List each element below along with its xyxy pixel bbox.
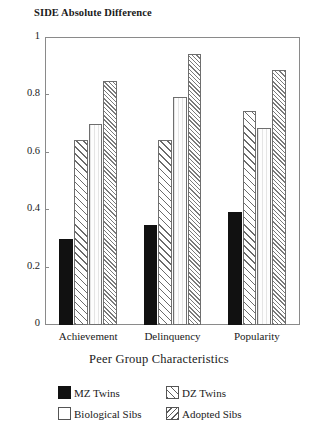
legend-swatch-dz-twins [166, 386, 179, 399]
legend-entry-dz-twins: DZ Twins [166, 386, 226, 399]
bar-adopted-sibs-achievement [103, 81, 117, 325]
y-axis-tick-label: 0.4 [0, 203, 40, 213]
legend-entry-adopted-sibs: Adopted Sibs [166, 407, 242, 420]
y-axis-tick-label: 0.6 [0, 146, 40, 156]
bar-mz-twins-delinquency [144, 225, 158, 325]
legend-row: Biological Sibs Adopted Sibs [58, 403, 268, 424]
x-axis-title: Peer Group Characteristics [0, 352, 318, 367]
legend-row: MZ Twins DZ Twins [58, 382, 268, 403]
y-axis-tick-label: 1 [0, 31, 40, 41]
legend-swatch-biological-sibs [58, 407, 71, 420]
bar-adopted-sibs-popularity [272, 70, 286, 325]
bar-chart-figure: SIDE Absolute Difference 00.20.40.60.81 … [0, 0, 318, 434]
chart-legend: MZ Twins DZ Twins Biological Sibs Adopte… [58, 382, 268, 424]
bar-dz-twins-popularity [243, 111, 257, 325]
legend-swatch-mz-twins [58, 386, 71, 399]
legend-label-adopted-sibs: Adopted Sibs [182, 408, 242, 420]
bar-dz-twins-delinquency [158, 140, 172, 325]
x-axis-tick-label: Delinquency [144, 330, 200, 342]
legend-label-biological-sibs: Biological Sibs [74, 408, 142, 420]
y-axis-tick-label: 0.8 [0, 88, 40, 98]
bar-biological-sibs-achievement [89, 124, 103, 325]
bars-layer [46, 38, 299, 325]
legend-swatch-adopted-sibs [166, 407, 179, 420]
bar-biological-sibs-popularity [257, 128, 271, 325]
bar-biological-sibs-delinquency [173, 97, 187, 325]
y-axis-tick-label: 0.2 [0, 261, 40, 271]
legend-label-dz-twins: DZ Twins [182, 387, 226, 399]
y-axis-tick-label: 0 [0, 318, 40, 328]
bar-adopted-sibs-delinquency [188, 54, 202, 325]
bar-dz-twins-achievement [74, 140, 88, 325]
legend-entry-biological-sibs: Biological Sibs [58, 407, 166, 420]
bar-mz-twins-achievement [59, 239, 73, 325]
legend-entry-mz-twins: MZ Twins [58, 386, 166, 399]
legend-label-mz-twins: MZ Twins [74, 387, 120, 399]
bar-mz-twins-popularity [228, 212, 242, 325]
x-axis-tick-label: Achievement [59, 330, 118, 342]
x-axis-tick-label: Popularity [234, 330, 280, 342]
y-axis-title: SIDE Absolute Difference [34, 7, 152, 18]
